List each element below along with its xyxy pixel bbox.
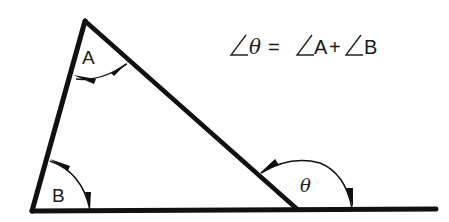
exterior-angle-diagram: A B θ θ = A + B xyxy=(0,0,449,222)
formula-plus: + xyxy=(329,36,341,58)
angle-b-label: B xyxy=(52,185,65,206)
formula-theta: θ xyxy=(249,35,261,59)
angle-theta-arrow-left xyxy=(260,159,279,173)
triangle-left-side xyxy=(32,21,85,211)
formula-term-a: A xyxy=(314,36,328,58)
angle-theta-label: θ xyxy=(300,175,311,196)
angle-b-arrow-top xyxy=(50,159,70,171)
formula-term-b: B xyxy=(364,36,377,58)
formula: θ = A + B xyxy=(231,35,377,59)
angle-a-label: A xyxy=(82,47,95,68)
formula-equals: = xyxy=(268,36,280,58)
baseline-extended xyxy=(32,209,436,211)
angle-b-arrow-bottom xyxy=(85,192,91,209)
triangle-right-side xyxy=(85,21,297,209)
angle-symbol-icon xyxy=(346,35,363,55)
angle-symbol-icon xyxy=(297,35,314,55)
angle-a-arrow-right xyxy=(111,62,128,76)
angle-symbol-icon xyxy=(231,35,248,55)
